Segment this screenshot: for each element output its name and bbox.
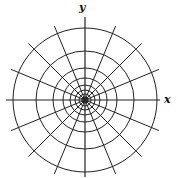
polar-grid-diagram: y x — [0, 0, 178, 178]
x-axis-label: x — [164, 94, 171, 105]
polar-grid — [0, 0, 178, 178]
y-axis-label: y — [79, 2, 85, 13]
